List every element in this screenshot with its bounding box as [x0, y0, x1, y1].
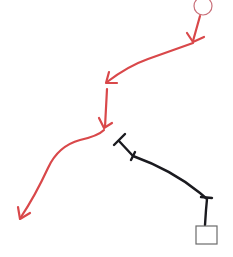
black-connector — [119, 141, 207, 225]
black-connector-path[interactable] — [114, 134, 212, 225]
red-seg-4 — [21, 130, 104, 217]
t-cap-top-icon — [114, 134, 125, 145]
red-arrow-path[interactable] — [18, 16, 204, 219]
start-node[interactable] — [194, 0, 212, 15]
end-square-icon[interactable] — [196, 226, 217, 244]
diagram-canvas — [0, 0, 233, 257]
red-seg-3 — [105, 89, 107, 127]
start-circle-icon[interactable] — [194, 0, 212, 15]
tick-2-icon — [201, 197, 212, 198]
red-seg-2 — [107, 43, 193, 82]
red-seg-1 — [193, 16, 200, 41]
end-node[interactable] — [196, 226, 217, 244]
